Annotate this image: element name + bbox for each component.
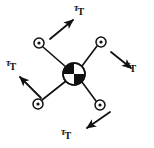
torque-arrow-top xyxy=(50,20,73,39)
torque-label-bottom: τT xyxy=(61,128,72,139)
node-bottom-right xyxy=(95,100,105,110)
node-top-left xyxy=(34,38,44,48)
torque-label-top: τT xyxy=(74,4,85,15)
torque-diagram-figure: τT τT τT τT xyxy=(0,0,154,148)
spoke-to-top-left xyxy=(43,47,66,67)
spoke-to-bottom-right xyxy=(82,82,96,101)
node-top-right xyxy=(96,37,106,47)
diagram-canvas xyxy=(0,0,154,148)
torque-label-left: τT xyxy=(6,59,17,70)
tau-subscript: T xyxy=(9,61,16,72)
spoke-to-bottom-left xyxy=(42,81,66,100)
torque-arrow-bottom xyxy=(87,112,110,128)
spoke-to-top-right xyxy=(82,46,97,66)
center-of-mass-symbol xyxy=(63,63,85,85)
node-bottom-left xyxy=(33,99,43,109)
tau-subscript: T xyxy=(77,6,84,17)
torque-label-right: τT xyxy=(126,61,137,72)
torque-arrow-left xyxy=(20,77,41,98)
tau-subscript: T xyxy=(129,63,136,74)
tau-subscript: T xyxy=(64,130,71,141)
